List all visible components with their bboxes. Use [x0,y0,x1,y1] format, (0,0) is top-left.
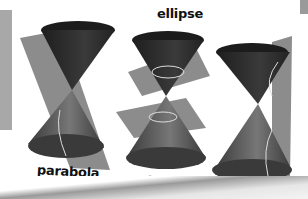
ellipse-label: ellipse [157,6,203,21]
hyperbola-figure [212,36,292,181]
parabola-figure [20,21,115,170]
page-bottom-edge [0,176,308,199]
ellipse-circle-figure [116,31,210,169]
